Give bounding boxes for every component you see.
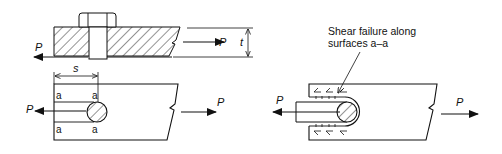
edge-distance-label: s bbox=[73, 62, 79, 74]
top-section-view: P P t bbox=[34, 13, 253, 59]
surface-label-a: a bbox=[56, 90, 62, 101]
surface-label-a: a bbox=[56, 124, 62, 135]
pin-hatching bbox=[87, 102, 107, 122]
diagram-canvas: P P t s a a a a P P bbox=[0, 0, 502, 154]
surface-label-a: a bbox=[92, 90, 98, 101]
plate-outline bbox=[54, 84, 178, 140]
bottom-left-plan-view: s a a a a P P bbox=[26, 62, 225, 140]
annotation-line-1: Shear failure along bbox=[328, 25, 416, 37]
load-label-left: P bbox=[35, 41, 43, 53]
bolt-shank bbox=[89, 27, 107, 59]
hatched-plate bbox=[54, 27, 180, 56]
load-label-right: P bbox=[456, 96, 464, 108]
load-label-right: P bbox=[217, 96, 225, 108]
load-label-left: P bbox=[26, 103, 34, 115]
thickness-label: t bbox=[240, 36, 244, 48]
annotation-line-2: surfaces a–a bbox=[328, 37, 388, 49]
bolt-head bbox=[79, 13, 116, 27]
bottom-right-failure-view: Shear failure along surfaces a–a bbox=[273, 25, 478, 140]
load-label-right: P bbox=[219, 36, 227, 48]
load-label-left: P bbox=[276, 94, 284, 106]
annotation-leader bbox=[338, 52, 360, 93]
surface-label-a: a bbox=[92, 124, 98, 135]
